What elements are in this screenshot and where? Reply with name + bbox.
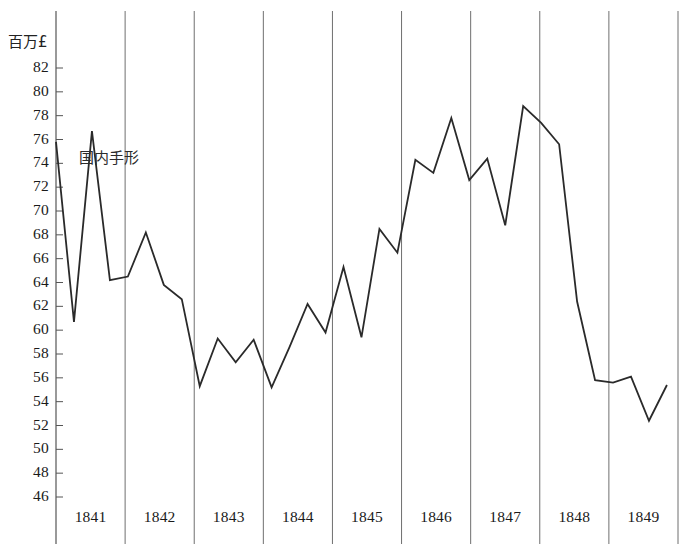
chart-container: 百万£ 国内手形 8280787674727068666462605856545… [0, 0, 683, 553]
x-tick-label-1845: 1845 [337, 508, 397, 526]
series-line-国内手形 [56, 106, 667, 421]
series-inline-label: 国内手形 [79, 146, 139, 167]
x-tick-label-1848: 1848 [544, 508, 604, 526]
x-tick-label-1849: 1849 [613, 508, 673, 526]
x-tick-label-1842: 1842 [130, 508, 190, 526]
y-tick-label-56: 56 [17, 368, 49, 386]
y-tick-label-58: 58 [17, 344, 49, 362]
y-axis-unit-label: 百万£ [8, 30, 48, 51]
x-tick-label-1846: 1846 [406, 508, 466, 526]
y-tick-label-72: 72 [17, 177, 49, 195]
data-series-group [56, 106, 667, 421]
y-tick-marks [56, 68, 63, 497]
y-tick-label-50: 50 [17, 439, 49, 457]
y-tick-label-66: 66 [17, 249, 49, 267]
gridlines-group [125, 11, 678, 544]
x-tick-label-1841: 1841 [61, 508, 121, 526]
y-tick-label-68: 68 [17, 225, 49, 243]
y-tick-label-76: 76 [17, 130, 49, 148]
y-tick-label-80: 80 [17, 82, 49, 100]
y-tick-label-46: 46 [17, 487, 49, 505]
y-tick-label-52: 52 [17, 416, 49, 434]
line-chart-plot [0, 0, 683, 553]
y-tick-label-78: 78 [17, 106, 49, 124]
y-tick-label-74: 74 [17, 153, 49, 171]
y-tick-label-70: 70 [17, 201, 49, 219]
y-tick-label-62: 62 [17, 296, 49, 314]
y-tick-label-82: 82 [17, 58, 49, 76]
y-tick-label-64: 64 [17, 273, 49, 291]
x-tick-label-1843: 1843 [199, 508, 259, 526]
x-tick-label-1847: 1847 [475, 508, 535, 526]
y-tick-label-60: 60 [17, 320, 49, 338]
x-tick-label-1844: 1844 [268, 508, 328, 526]
y-tick-label-54: 54 [17, 392, 49, 410]
y-tick-label-48: 48 [17, 463, 49, 481]
